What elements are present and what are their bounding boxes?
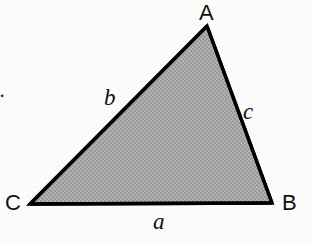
vertex-label-c: C [5, 192, 21, 214]
triangle-shape [30, 26, 272, 204]
vertex-label-a: A [199, 2, 214, 24]
figure-number-label: 2. [0, 80, 5, 101]
figure-canvas: 2. A B C a b c [0, 0, 312, 246]
side-label-c: c [243, 100, 253, 123]
triangle-edge-a [30, 203, 272, 204]
side-label-b: b [104, 86, 116, 109]
vertex-label-b: B [282, 192, 297, 214]
side-label-a: a [153, 210, 165, 233]
